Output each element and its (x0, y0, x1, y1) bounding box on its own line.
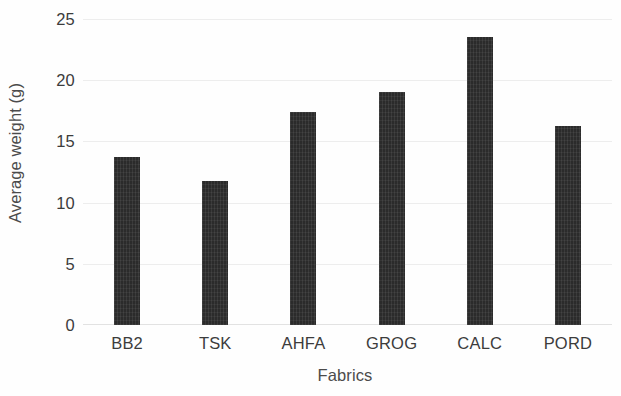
y-tick-label: 0 (41, 316, 75, 335)
x-tick-label: BB2 (79, 334, 175, 353)
x-axis-tick-labels: BB2TSKAHFAGROGCALCPORD (83, 334, 612, 360)
bars-layer (83, 19, 612, 325)
y-axis-title: Average weight (g) (0, 0, 30, 351)
bar (467, 37, 493, 325)
bar (114, 157, 140, 325)
x-tick-label: PORD (520, 334, 616, 353)
bar-chart: Average weight (g) 25 20 15 10 5 0 BB2TS… (0, 0, 621, 396)
bar (290, 112, 316, 325)
bar (379, 92, 405, 325)
bar (555, 126, 581, 326)
y-tick-label: 5 (41, 254, 75, 273)
x-tick-label: AHFA (255, 334, 351, 353)
y-axis-tick-labels: 25 20 15 10 5 0 (41, 19, 75, 325)
x-tick-label: CALC (432, 334, 528, 353)
x-tick-label: GROG (344, 334, 440, 353)
y-tick-label: 25 (41, 10, 75, 29)
y-tick-label: 10 (41, 193, 75, 212)
x-axis-title: Fabrics (75, 366, 615, 385)
y-tick-label: 20 (41, 71, 75, 90)
plot-area (83, 19, 612, 325)
x-tick-label: TSK (167, 334, 263, 353)
y-tick-label: 15 (41, 132, 75, 151)
bar (202, 181, 228, 325)
